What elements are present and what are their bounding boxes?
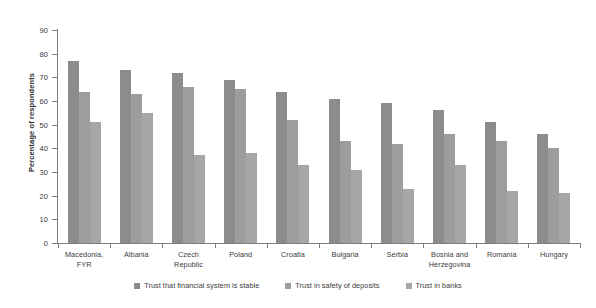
bar-group: [215, 30, 267, 243]
bar: [172, 73, 183, 243]
bar-group: [423, 30, 475, 243]
x-axis-tick: [215, 243, 216, 248]
bar: [392, 144, 403, 243]
chart-figure: Percentage of respondents 90807060504030…: [0, 0, 596, 308]
x-axis-tick: [423, 243, 424, 248]
bar: [287, 120, 298, 243]
y-axis-tick-label: 30: [8, 168, 48, 177]
bar: [381, 103, 392, 243]
legend-swatch-icon: [285, 283, 291, 289]
bar: [496, 141, 507, 243]
bar: [433, 110, 444, 243]
bar: [485, 122, 496, 243]
x-axis-category-label: Poland: [215, 250, 267, 269]
bar: [537, 134, 548, 243]
bar: [507, 191, 518, 243]
bar-group: [267, 30, 319, 243]
x-axis-category-label: Hungary: [528, 250, 580, 269]
bar: [194, 155, 205, 243]
x-axis-category-label: CzechRepublic: [162, 250, 214, 269]
bar: [403, 189, 414, 243]
legend-swatch-icon: [134, 283, 140, 289]
x-axis-tick: [528, 243, 529, 248]
bar: [120, 70, 131, 243]
x-axis-category-label: Serbia: [371, 250, 423, 269]
legend-label: Trust in safety of deposits: [295, 281, 379, 290]
bar-groups: [58, 30, 580, 243]
bar: [444, 134, 455, 243]
y-axis-tick-label: 80: [8, 50, 48, 59]
bar-group: [110, 30, 162, 243]
bar: [183, 87, 194, 243]
x-axis-category-label: Croatia: [267, 250, 319, 269]
x-axis-category-label: Romania: [476, 250, 528, 269]
bar-group: [319, 30, 371, 243]
bar-group: [476, 30, 528, 243]
x-axis-category-label: Bulgaria: [319, 250, 371, 269]
legend-item[interactable]: Trust that financial system is stable: [134, 281, 259, 290]
legend-swatch-icon: [406, 283, 412, 289]
x-axis-tick: [267, 243, 268, 248]
bar-group: [528, 30, 580, 243]
legend-item[interactable]: Trust in safety of deposits: [285, 281, 379, 290]
bar: [90, 122, 101, 243]
bar: [224, 80, 235, 243]
x-axis-category-label: Macedonia,FYR: [58, 250, 110, 269]
bar-group: [371, 30, 423, 243]
bar: [351, 170, 362, 243]
y-axis-tick-label: 90: [8, 26, 48, 35]
bar: [246, 153, 257, 243]
bar: [68, 61, 79, 243]
bar: [559, 193, 570, 243]
x-axis-category-labels: Macedonia,FYRAlbaniaCzechRepublicPolandC…: [58, 250, 580, 269]
y-axis-tick-label: 0: [8, 239, 48, 248]
bar: [329, 99, 340, 243]
bar: [276, 92, 287, 243]
x-axis-category-label: Albania: [110, 250, 162, 269]
bar-group: [162, 30, 214, 243]
x-axis-tick: [162, 243, 163, 248]
bar: [131, 94, 142, 243]
bar: [235, 89, 246, 243]
y-axis-tick-label: 10: [8, 215, 48, 224]
x-axis-tick: [110, 243, 111, 248]
legend-label: Trust that financial system is stable: [144, 281, 259, 290]
y-axis-tick-label: 20: [8, 192, 48, 201]
y-axis-tick-label: 40: [8, 144, 48, 153]
x-axis-tick: [371, 243, 372, 248]
bar: [79, 92, 90, 243]
chart-legend: Trust that financial system is stableTru…: [0, 281, 596, 290]
y-axis-tick-label: 50: [8, 121, 48, 130]
x-axis-tick: [580, 243, 581, 248]
x-axis-tick: [476, 243, 477, 248]
x-axis-tick: [319, 243, 320, 248]
y-axis-tick-label: 60: [8, 97, 48, 106]
bar: [340, 141, 351, 243]
x-axis-tick: [58, 243, 59, 248]
legend-label: Trust in banks: [416, 281, 462, 290]
y-axis-tick-label: 70: [8, 73, 48, 82]
bar: [142, 113, 153, 243]
bar-group: [58, 30, 110, 243]
bar: [455, 165, 466, 243]
x-axis-category-label: Bosnia andHerzegovina: [423, 250, 475, 269]
bar: [548, 148, 559, 243]
legend-item[interactable]: Trust in banks: [406, 281, 462, 290]
bar: [298, 165, 309, 243]
